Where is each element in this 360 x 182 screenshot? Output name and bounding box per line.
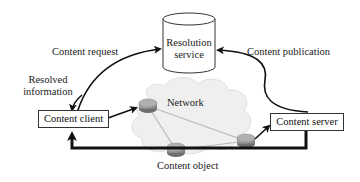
router-icon [139, 99, 157, 113]
content-publication-label: Content publication [247, 46, 330, 58]
content-request-label: Content request [52, 46, 118, 58]
content-client-label: Content client [44, 113, 103, 124]
client-to-network-arrow [108, 108, 136, 118]
content-object-label: Content object [157, 160, 219, 172]
resolution-service-label: Resolution service [163, 37, 215, 61]
content-client-node: Content client [38, 110, 109, 128]
network-to-server-arrow [255, 126, 269, 139]
router-icon [237, 134, 255, 148]
resolved-information-label: Resolved information [20, 74, 76, 98]
router-icon [167, 143, 185, 157]
network-label: Network [167, 97, 204, 109]
content-server-label: Content server [276, 116, 338, 127]
content-server-node: Content server [270, 113, 344, 131]
